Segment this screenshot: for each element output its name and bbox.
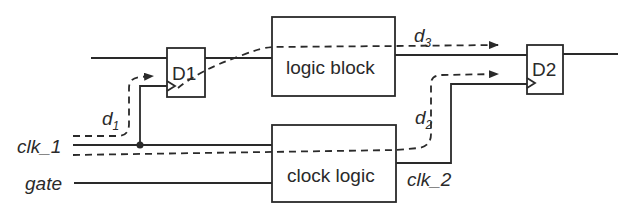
d2-delay-path	[73, 74, 498, 155]
gate-label: gate	[25, 174, 62, 193]
junction-dot	[137, 142, 144, 149]
diagram-wiring	[0, 0, 632, 224]
clock-logic-box	[272, 125, 396, 202]
d2-label: D2	[532, 60, 556, 79]
d1-delay-label: d1	[102, 109, 119, 128]
logic-block-label: logic block	[286, 58, 375, 77]
d1-delay-base: d	[102, 108, 113, 129]
clk1-label: clk_1	[17, 137, 61, 156]
d3-delay-base: d	[414, 25, 425, 46]
d3-delay-label: d3	[414, 26, 431, 45]
d3-delay-sub: 3	[425, 36, 432, 50]
d1-label: D1	[172, 64, 196, 83]
d2-delay-base: d	[415, 107, 426, 128]
timing-diagram: D1 D2 logic block clock logic clk_1 gate…	[0, 0, 632, 224]
d1-delay-sub: 1	[113, 119, 120, 133]
clk2-label: clk_2	[407, 170, 451, 189]
d2-delay-label: d2	[415, 108, 432, 127]
clock-logic-label: clock logic	[287, 166, 375, 185]
d1-clock-branch-wire	[140, 86, 167, 145]
d2-delay-sub: 2	[426, 118, 433, 132]
